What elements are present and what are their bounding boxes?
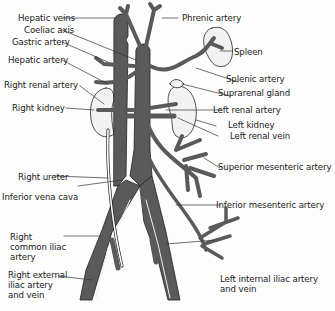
label-left-renal-artery: Left renal artery: [213, 105, 281, 115]
label-hepatic-veins: Hepatic veins: [18, 13, 75, 23]
suprarenal-gland-shape: [170, 80, 184, 88]
label-right-renal-artery: Right renal artery: [4, 80, 78, 90]
label-gastric-artery: Gastric artery: [12, 37, 70, 47]
label-phrenic-artery: Phrenic artery: [182, 13, 241, 23]
label-coeliac-axis: Coeliac axis: [24, 25, 74, 35]
label-splenic-artery: Splenic artery: [226, 74, 285, 84]
right-kidney-shape: [91, 88, 114, 137]
left-kidney-shape: [168, 86, 196, 138]
label-right-external-iliac: Right external iliac artery and vein: [8, 270, 68, 300]
ivc-shape: [114, 14, 128, 186]
label-left-kidney: Left kidney: [228, 120, 274, 130]
left-iliac-shape: [140, 176, 180, 300]
label-hepatic-artery: Hepatic artery: [8, 55, 68, 65]
label-inferior-mesenteric-artery: Inferior mesenteric artery: [216, 200, 324, 210]
anatomy-diagram: Hepatic veins Coeliac axis Gastric arter…: [0, 0, 335, 311]
label-spleen: Spleen: [234, 47, 263, 57]
label-left-internal-iliac: Left internal iliac artery and vein: [220, 274, 330, 294]
label-right-ureter: Right ureter: [18, 172, 68, 182]
label-inferior-vena-cava: Inferior vena cava: [2, 192, 78, 202]
label-suprarenal-gland: Suprarenal gland: [218, 88, 290, 98]
label-superior-mesenteric-artery: Superior mesenteric artery: [218, 162, 331, 172]
label-left-renal-vein: Left renal vein: [230, 131, 290, 141]
label-right-kidney: Right kidney: [12, 103, 65, 113]
label-right-common-iliac-artery: Right common iliac artery: [10, 232, 70, 262]
